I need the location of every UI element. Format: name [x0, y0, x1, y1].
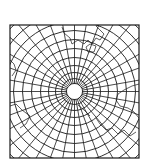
polar-projection-map [0, 0, 149, 167]
pole-hole [67, 84, 82, 99]
